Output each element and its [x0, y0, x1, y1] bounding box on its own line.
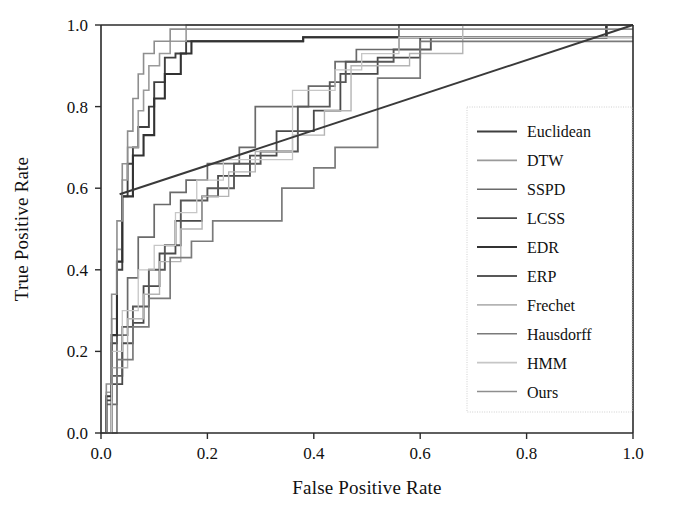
- y-axis-title: True Positive Rate: [11, 157, 32, 301]
- legend-label: Hausdorff: [527, 326, 592, 343]
- y-tick-label: 0.4: [67, 261, 89, 280]
- chart-legend[interactable]: EuclideanDTWSSPDLCSSEDRERPFrechetHausdor…: [467, 107, 632, 412]
- legend-label: Euclidean: [527, 123, 591, 140]
- roc-figure: 0.00.20.40.60.81.00.00.20.40.60.81.0 Euc…: [0, 0, 678, 508]
- x-tick-label: 1.0: [622, 444, 643, 463]
- x-tick-label: 0.6: [410, 444, 431, 463]
- legend-label: Ours: [527, 384, 558, 401]
- x-tick-label: 0.2: [197, 444, 218, 463]
- y-tick-label: 0.6: [67, 179, 88, 198]
- roc-chart-svg: 0.00.20.40.60.81.00.00.20.40.60.81.0 Euc…: [0, 0, 678, 508]
- x-tick-label: 0.0: [90, 444, 111, 463]
- legend-label: DTW: [527, 152, 564, 169]
- legend-label: SSPD: [527, 181, 565, 198]
- legend-label: HMM: [527, 355, 567, 372]
- y-tick-label: 0.8: [67, 98, 88, 117]
- x-tick-label: 0.4: [303, 444, 325, 463]
- legend-label: LCSS: [527, 210, 565, 227]
- legend-label: ERP: [527, 268, 556, 285]
- x-tick-label: 0.8: [516, 444, 537, 463]
- y-tick-label: 0.0: [67, 424, 88, 443]
- y-tick-label: 0.2: [67, 342, 88, 361]
- y-tick-label: 1.0: [67, 16, 88, 35]
- legend-label: Frechet: [527, 297, 576, 314]
- x-axis-title: False Positive Rate: [292, 477, 441, 498]
- legend-label: EDR: [527, 239, 559, 256]
